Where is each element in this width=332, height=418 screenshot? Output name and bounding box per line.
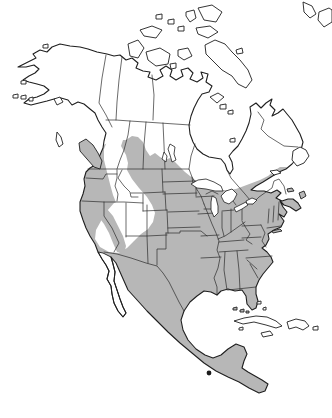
greenland-corner: [303, 2, 332, 27]
cape-breton-island: [299, 191, 306, 199]
range-map-figure: [0, 0, 332, 418]
queen-elizabeth-islets: [156, 14, 184, 31]
hispaniola-island: [287, 319, 309, 330]
guatemala-lake-spot: [207, 371, 212, 376]
devon-island: [196, 26, 218, 38]
florida-keys: [233, 307, 249, 313]
bylot-island: [236, 48, 243, 54]
isla-juventud: [239, 327, 243, 330]
coats-mansel-islets: [220, 104, 235, 142]
victoria-island: [146, 48, 170, 66]
ellesmere-island: [198, 5, 222, 22]
cuba-island: [234, 316, 282, 328]
baffin-island: [205, 40, 252, 88]
southampton-island: [210, 93, 224, 103]
haida-gwaii: [56, 132, 63, 147]
somerset-island: [178, 48, 192, 60]
north-america-range-map: [0, 0, 332, 418]
vancouver-island: [79, 139, 102, 169]
newfoundland-island: [292, 147, 309, 166]
jamaica-island: [261, 331, 273, 337]
prince-edward-island: [287, 188, 294, 192]
king-william-island: [170, 63, 176, 69]
axel-heiberg-island: [186, 10, 196, 22]
bahamas-islets: [257, 301, 266, 310]
puerto-rico-island: [313, 326, 318, 330]
caribbean-islands: [234, 301, 318, 337]
melville-island: [140, 26, 162, 38]
banks-island: [128, 40, 144, 58]
